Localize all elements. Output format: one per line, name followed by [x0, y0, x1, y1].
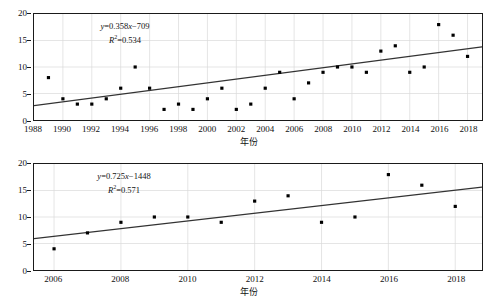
y-tick-mark — [27, 217, 31, 218]
plot-area-bottom: y=0.725x−1448R2=0.571 — [33, 163, 483, 271]
x-tick-label: 1996 — [140, 124, 158, 134]
figure-page: 台风风暴潮频次 05101520 y=0.358x−709R2=0.534 19… — [0, 0, 498, 307]
y-tick-mark — [27, 13, 31, 14]
plot-area-top: y=0.358x−709R2=0.534 — [33, 13, 483, 121]
x-tick-label: 1992 — [82, 124, 100, 134]
regression-r2: R2=0.571 — [59, 182, 189, 196]
x-tick-label: 2002 — [227, 124, 245, 134]
y-tick-mark — [27, 163, 31, 164]
x-tick-label: 2000 — [198, 124, 216, 134]
x-axis-title-top: 年份 — [0, 135, 498, 148]
y-axis-ticks-top: 05101520 — [0, 13, 31, 121]
x-axis-title-bottom: 年份 — [0, 285, 498, 298]
y-tick-label: 15 — [18, 36, 27, 45]
x-tick-label: 2016 — [380, 274, 398, 284]
x-tick-label: 1988 — [24, 124, 42, 134]
regression-annotation-top: y=0.358x−709R2=0.534 — [65, 21, 185, 46]
x-tick-label: 2010 — [178, 274, 196, 284]
regression-r2: R2=0.534 — [65, 32, 185, 46]
y-tick-mark — [27, 40, 31, 41]
y-axis-ticks-bottom: 05101520 — [0, 163, 31, 271]
y-tick-label: 10 — [18, 213, 27, 222]
y-tick-label: 15 — [18, 186, 27, 195]
y-tick-label: 20 — [18, 159, 27, 168]
x-tick-label: 2012 — [246, 274, 264, 284]
x-tick-label: 2012 — [372, 124, 390, 134]
y-tick-label: 10 — [18, 63, 27, 72]
x-tick-label: 1998 — [169, 124, 187, 134]
regression-equation: y=0.725x−1448 — [59, 171, 189, 182]
x-tick-label: 2016 — [430, 124, 448, 134]
x-tick-label: 1990 — [53, 124, 71, 134]
x-tick-label: 2008 — [111, 274, 129, 284]
y-tick-mark — [27, 67, 31, 68]
x-tick-label: 2014 — [313, 274, 331, 284]
chart-bottom: 台风风暴潮频次 05101520 y=0.725x−1448R2=0.571 2… — [0, 150, 498, 307]
x-tick-label: 2010 — [343, 124, 361, 134]
y-tick-mark — [27, 94, 31, 95]
x-tick-label: 2018 — [447, 274, 465, 284]
x-tick-label: 2004 — [256, 124, 274, 134]
y-tick-mark — [27, 190, 31, 191]
y-tick-mark — [27, 121, 31, 122]
y-tick-mark — [27, 271, 31, 272]
x-tick-label: 2014 — [401, 124, 419, 134]
regression-equation: y=0.358x−709 — [65, 21, 185, 32]
y-tick-label: 20 — [18, 9, 27, 18]
x-tick-label: 2008 — [314, 124, 332, 134]
x-tick-label: 2006 — [44, 274, 62, 284]
x-tick-label: 2006 — [285, 124, 303, 134]
chart-top: 台风风暴潮频次 05101520 y=0.358x−709R2=0.534 19… — [0, 0, 498, 150]
x-tick-label: 1994 — [111, 124, 129, 134]
y-tick-mark — [27, 244, 31, 245]
x-tick-label: 2018 — [459, 124, 477, 134]
regression-annotation-bottom: y=0.725x−1448R2=0.571 — [59, 171, 189, 196]
